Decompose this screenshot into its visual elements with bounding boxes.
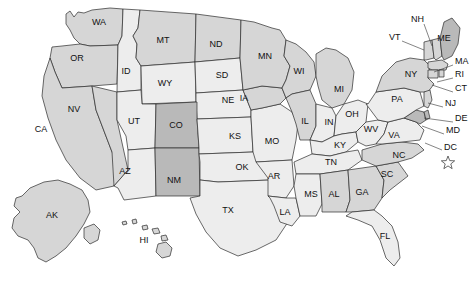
state-label-OH: OH bbox=[345, 109, 359, 119]
state-shape-OR[interactable] bbox=[50, 44, 118, 88]
state-label-TN: TN bbox=[325, 157, 337, 167]
state-label-KY: KY bbox=[334, 140, 346, 150]
state-label-NC: NC bbox=[393, 150, 406, 160]
state-shape-KS[interactable] bbox=[197, 117, 253, 154]
state-label-MI: MI bbox=[334, 84, 344, 94]
state-label-IN: IN bbox=[325, 117, 334, 127]
state-label-CT: CT bbox=[455, 83, 467, 93]
state-label-IL: IL bbox=[301, 116, 309, 126]
state-label-PA: PA bbox=[391, 94, 402, 104]
state-label-MD: MD bbox=[446, 125, 460, 135]
state-shape-MI[interactable] bbox=[316, 48, 354, 108]
state-shape-MO[interactable] bbox=[251, 104, 298, 162]
state-shape-MA[interactable] bbox=[428, 60, 448, 70]
leader-line-DE bbox=[424, 118, 453, 122]
state-label-NY: NY bbox=[405, 69, 418, 79]
leader-line-MD bbox=[422, 126, 444, 134]
state-label-SD: SD bbox=[216, 70, 229, 80]
leader-line-DC bbox=[425, 143, 442, 150]
state-label-MA: MA bbox=[455, 56, 469, 66]
state-shape-RI[interactable] bbox=[439, 70, 444, 77]
state-label-LA: LA bbox=[279, 207, 290, 217]
state-label-NE: NE bbox=[222, 95, 235, 105]
state-label-WY: WY bbox=[158, 78, 173, 88]
state-label-ID: ID bbox=[122, 66, 132, 76]
us-map-container: WA OR ID MT ND SD NE MN WI MI IA WY NV U… bbox=[0, 0, 476, 285]
state-label-CO: CO bbox=[169, 120, 183, 130]
state-label-NM: NM bbox=[167, 175, 181, 185]
leader-line-RI bbox=[437, 78, 453, 82]
state-shape-NJ[interactable] bbox=[424, 90, 432, 108]
state-label-IA: IA bbox=[240, 93, 249, 103]
state-label-DC: DC bbox=[444, 142, 457, 152]
state-label-AZ: AZ bbox=[119, 166, 131, 176]
state-label-SC: SC bbox=[381, 169, 394, 179]
state-label-RI: RI bbox=[455, 69, 464, 79]
state-label-WI: WI bbox=[294, 66, 305, 76]
state-shape-FL[interactable] bbox=[346, 210, 400, 266]
leader-line-CT bbox=[432, 85, 453, 92]
state-label-OR: OR bbox=[70, 53, 84, 63]
state-label-AK: AK bbox=[46, 210, 58, 220]
state-label-NJ: NJ bbox=[445, 98, 456, 108]
state-label-HI: HI bbox=[140, 235, 149, 245]
state-label-MN: MN bbox=[258, 51, 272, 61]
state-label-KS: KS bbox=[229, 131, 241, 141]
us-states-map: WA OR ID MT ND SD NE MN WI MI IA WY NV U… bbox=[0, 0, 476, 285]
state-label-TX: TX bbox=[222, 205, 234, 215]
state-shape-ND[interactable] bbox=[195, 14, 241, 62]
leader-line-NJ bbox=[428, 103, 443, 107]
state-label-GA: GA bbox=[355, 187, 368, 197]
state-label-DE: DE bbox=[455, 113, 468, 123]
state-label-WV: WV bbox=[364, 124, 379, 134]
state-label-AL: AL bbox=[328, 189, 339, 199]
state-label-CA: CA bbox=[35, 124, 48, 134]
state-label-NV: NV bbox=[68, 104, 81, 114]
state-label-ME: ME bbox=[437, 33, 451, 43]
dc-star-icon bbox=[441, 156, 454, 169]
state-shape-AK[interactable] bbox=[12, 180, 100, 262]
state-label-AR: AR bbox=[268, 171, 281, 181]
state-label-ND: ND bbox=[210, 39, 223, 49]
state-label-MT: MT bbox=[157, 35, 170, 45]
state-label-WA: WA bbox=[92, 17, 106, 27]
state-label-FL: FL bbox=[380, 231, 391, 241]
state-label-UT: UT bbox=[128, 116, 140, 126]
state-label-OK: OK bbox=[235, 162, 248, 172]
leader-line-VT bbox=[402, 41, 424, 50]
state-shape-NM[interactable] bbox=[155, 148, 200, 196]
state-label-VT: VT bbox=[389, 32, 401, 42]
state-label-VA: VA bbox=[388, 130, 399, 140]
state-label-NH: NH bbox=[411, 14, 424, 24]
state-label-MS: MS bbox=[304, 189, 318, 199]
state-label-MO: MO bbox=[265, 136, 280, 146]
